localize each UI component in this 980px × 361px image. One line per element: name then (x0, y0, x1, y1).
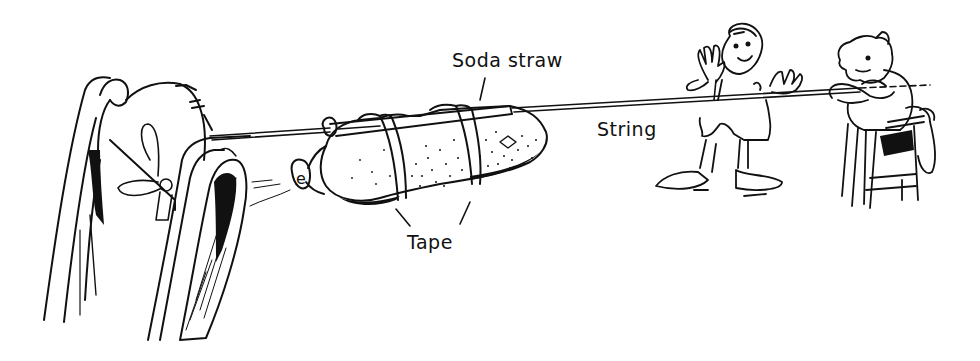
chair-back-left (44, 77, 250, 340)
label-soda-straw: Soda straw (452, 51, 563, 70)
air-jet-lines (250, 180, 290, 206)
label-tape: Tape (407, 233, 453, 252)
label-string: String (597, 120, 657, 139)
leader-lines (396, 78, 716, 226)
balloon-texture (351, 131, 537, 187)
string (210, 85, 930, 140)
balloon-rocket-illustration: e (0, 0, 980, 361)
svg-text:e: e (296, 169, 306, 188)
seated-child (830, 32, 935, 208)
soda-straw (330, 106, 512, 136)
balloon: e (292, 106, 547, 205)
waving-child (656, 24, 802, 196)
